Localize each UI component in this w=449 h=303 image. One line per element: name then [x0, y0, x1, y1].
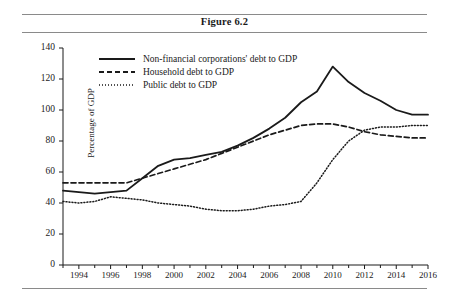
- chart-plot-area: Percentage of GDP 020406080100120140 199…: [63, 48, 428, 265]
- y-tick-marks: [59, 48, 63, 265]
- title-underline-rule: [22, 32, 427, 33]
- x-tick-label: 2008: [284, 270, 318, 280]
- chart-legend: Non-financial corporations' debt to GDP …: [97, 52, 297, 91]
- x-tick-label: 2006: [252, 270, 286, 280]
- y-tick-label: 40: [29, 197, 55, 207]
- x-tick-label: 2014: [379, 270, 413, 280]
- legend-item-public: Public debt to GDP: [97, 78, 297, 91]
- legend-item-corporate: Non-financial corporations' debt to GDP: [97, 52, 297, 65]
- x-tick-label: 2000: [157, 270, 191, 280]
- figure-container: Figure 6.2 Percentage of GDP 02040608010…: [0, 0, 449, 303]
- y-tick-label: 140: [29, 42, 55, 52]
- series-line: [63, 124, 428, 183]
- y-tick-label: 20: [29, 228, 55, 238]
- x-tick-label: 2004: [221, 270, 255, 280]
- y-tick-label: 60: [29, 166, 55, 176]
- series-line: [63, 126, 428, 211]
- y-tick-label: 0: [29, 259, 55, 269]
- x-tick-label: 2002: [189, 270, 223, 280]
- x-tick-label: 2010: [316, 270, 350, 280]
- bottom-rule: [22, 288, 427, 289]
- y-tick-label: 100: [29, 104, 55, 114]
- y-tick-label: 120: [29, 73, 55, 83]
- top-rule: [22, 14, 427, 15]
- legend-label-household: Household debt to GDP: [143, 67, 234, 77]
- legend-label-corporate: Non-financial corporations' debt to GDP: [143, 54, 297, 64]
- x-tick-label: 2012: [348, 270, 382, 280]
- x-tick-marks: [63, 265, 428, 269]
- x-tick-label: 2016: [411, 270, 445, 280]
- legend-line-dotted-icon: [97, 80, 137, 90]
- legend-line-solid-icon: [97, 54, 137, 64]
- y-tick-label: 80: [29, 135, 55, 145]
- x-tick-label: 1996: [94, 270, 128, 280]
- legend-label-public: Public debt to GDP: [143, 80, 217, 90]
- x-tick-label: 1994: [62, 270, 96, 280]
- figure-title: Figure 6.2: [0, 16, 449, 27]
- legend-line-dashed-icon: [97, 67, 137, 77]
- x-tick-label: 1998: [125, 270, 159, 280]
- legend-item-household: Household debt to GDP: [97, 65, 297, 78]
